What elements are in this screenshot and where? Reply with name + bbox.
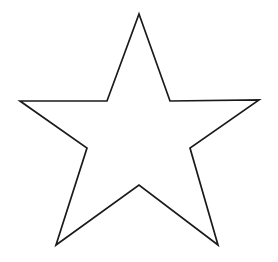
star-icon <box>20 14 259 245</box>
drawing-canvas: Star Hand-drawn five-pointed star outlin… <box>0 0 278 262</box>
star-drawing: Star Hand-drawn five-pointed star outlin… <box>0 0 278 262</box>
